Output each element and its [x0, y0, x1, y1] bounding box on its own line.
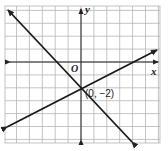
y-axis-label: y [83, 3, 90, 15]
x-axis-label: x [150, 65, 157, 77]
intersection-label: (0, −2) [85, 88, 114, 99]
origin-label: O [71, 63, 78, 74]
coordinate-graph: y x O (0, −2) [0, 0, 168, 151]
line-decreasing [8, 10, 132, 142]
grid [5, 6, 160, 143]
